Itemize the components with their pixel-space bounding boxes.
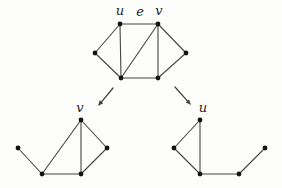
diagram-canvas: uevvu: [0, 0, 282, 188]
top-graph-label-u: u: [116, 3, 124, 18]
arrow-to-right-subgraph-shaft: [175, 87, 187, 101]
left-subgraph-vertex-bm: [79, 172, 84, 177]
graph-deletion-diagram: uevvu: [0, 0, 282, 188]
left-subgraph-vertex-far-left: [16, 146, 21, 151]
left-subgraph-edge-v-right: [81, 120, 107, 148]
top-graph-vertex-u: [118, 22, 123, 27]
top-graph-vertex-v: [156, 22, 161, 27]
left-subgraph-edge-bl-v: [42, 120, 81, 174]
top-graph-label-e: e: [136, 4, 144, 19]
top-graph-edge-v-right: [158, 24, 186, 53]
right-subgraph-edge-bm-right: [239, 148, 265, 174]
left-subgraph-edge-right-bm: [81, 148, 107, 174]
left-subgraph-edge-far-left-bl: [18, 148, 42, 174]
right-subgraph-edge-left-bl: [174, 148, 200, 174]
left-subgraph-vertex-right: [105, 146, 110, 151]
left-subgraph-label-v: v: [76, 100, 84, 115]
top-graph-edge-br-right: [158, 53, 186, 78]
right-subgraph-edge-left-u: [174, 120, 200, 148]
top-graph-edge-left-u: [95, 24, 120, 53]
top-graph-edge-u-bl: [120, 24, 121, 78]
top-graph-label-v: v: [155, 3, 163, 18]
right-subgraph-vertex-bm: [237, 172, 242, 177]
top-graph-vertex-bl: [119, 76, 124, 81]
top-graph-vertex-br: [156, 76, 161, 81]
right-subgraph-vertex-right: [263, 146, 268, 151]
top-graph-edge-bl-v: [121, 24, 158, 78]
left-subgraph-vertex-v: [79, 118, 84, 123]
right-subgraph-label-u: u: [199, 100, 207, 115]
top-graph-vertex-left: [93, 51, 98, 56]
right-subgraph-vertex-left: [172, 146, 177, 151]
right-subgraph-vertex-u: [198, 118, 203, 123]
left-subgraph-vertex-bl: [40, 172, 45, 177]
top-graph-edge-left-bl: [95, 53, 121, 78]
top-graph-vertex-right: [184, 51, 189, 56]
arrow-to-left-subgraph-shaft: [102, 88, 113, 102]
right-subgraph-vertex-bl: [198, 172, 203, 177]
